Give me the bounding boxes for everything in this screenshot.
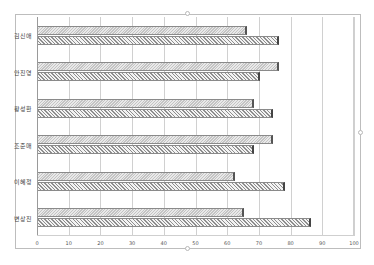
x-tick-label: 100 — [349, 240, 359, 246]
x-tick-label: 30 — [129, 240, 135, 246]
gridline — [227, 17, 228, 236]
bar-series1[interactable] — [38, 26, 247, 35]
category-label: 변상진 — [0, 213, 32, 222]
resize-handle-top[interactable] — [185, 11, 190, 16]
bar-series2[interactable] — [38, 182, 285, 191]
bar-series1[interactable] — [38, 172, 235, 181]
gridline — [322, 17, 323, 236]
bar-series2[interactable] — [38, 218, 311, 227]
bar-series2[interactable] — [38, 36, 279, 45]
x-tick-label: 0 — [35, 240, 38, 246]
bar-series2[interactable] — [38, 145, 254, 154]
gridline — [291, 17, 292, 236]
category-label: 김신애 — [0, 31, 32, 40]
category-label: 조준매 — [0, 140, 32, 149]
x-tick-label: 90 — [319, 240, 325, 246]
gridline — [259, 17, 260, 236]
gridline — [196, 17, 197, 236]
bar-series2[interactable] — [38, 109, 273, 118]
y-axis-line — [37, 17, 38, 236]
category-label: 이혜정 — [0, 177, 32, 186]
x-tick-label: 10 — [66, 240, 72, 246]
x-tick-label: 20 — [97, 240, 103, 246]
x-tick-label: 40 — [161, 240, 167, 246]
plot-area — [37, 17, 354, 236]
bar-series2[interactable] — [38, 72, 260, 81]
gridline — [354, 17, 355, 236]
gridline — [132, 17, 133, 236]
gridline — [100, 17, 101, 236]
bar-series1[interactable] — [38, 62, 279, 71]
x-tick-label: 80 — [287, 240, 293, 246]
gridline — [69, 17, 70, 236]
category-label: 황성환 — [0, 104, 32, 113]
x-tick-label: 60 — [224, 240, 230, 246]
x-tick-label: 70 — [256, 240, 262, 246]
resize-handle-right[interactable] — [358, 130, 363, 135]
category-label: 안진영 — [0, 67, 32, 76]
x-tick-label: 50 — [192, 240, 198, 246]
bar-series1[interactable] — [38, 208, 244, 217]
resize-handle-bottom[interactable] — [185, 246, 190, 251]
bar-series1[interactable] — [38, 135, 273, 144]
bar-series1[interactable] — [38, 99, 254, 108]
gridline — [164, 17, 165, 236]
